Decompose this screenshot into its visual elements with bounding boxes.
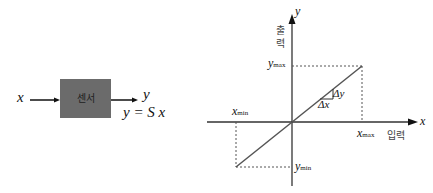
output-arrowhead-icon <box>132 98 138 103</box>
y-axis-label: y <box>295 4 300 19</box>
x-max-label: xmax <box>357 126 374 141</box>
sensor-label: 센서 <box>60 79 111 118</box>
delta-y-label: Δy <box>333 87 344 99</box>
equation: y = S x <box>123 104 165 121</box>
y-axis-title: 출력 <box>276 24 286 50</box>
y-max-label: ymax <box>268 56 285 71</box>
x-axis-title: 입력 <box>387 127 405 142</box>
input-x-label: x <box>17 89 24 106</box>
x-axis-arrowhead-icon <box>408 119 418 126</box>
characteristic-line <box>236 66 362 167</box>
delta-x-label: Δx <box>318 98 329 110</box>
y-min-label: ymin <box>295 159 311 174</box>
output-y-label: y <box>143 86 150 103</box>
x-min-label: xmin <box>232 104 248 119</box>
x-axis-label: x <box>420 114 425 129</box>
